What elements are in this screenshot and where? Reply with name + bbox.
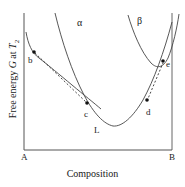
point-marker-c (85, 101, 89, 105)
x-axis-end-label: B (169, 153, 175, 162)
y-axis-title-temp-subscript: 2 (13, 40, 21, 44)
point-label-c: c (84, 110, 88, 119)
x-axis-title: Composition (0, 168, 185, 179)
y-axis-title-prefix: Free energy (7, 68, 18, 118)
liquid-curve (55, 13, 172, 126)
point-marker-d (145, 98, 149, 102)
x-axis-start-label: A (21, 153, 28, 162)
alpha-curve-label: α (77, 18, 82, 28)
point-marker-b (32, 50, 36, 54)
y-axis-title: Free energy G at T2 (7, 9, 21, 149)
free-energy-composition-diagram: α β L b c d e A B Composition Free energ… (0, 0, 185, 187)
point-label-e: e (166, 60, 170, 69)
tangent-d-e (147, 63, 163, 101)
point-label-d: d (146, 108, 151, 117)
liquid-curve-label: L (94, 126, 100, 135)
y-axis-title-temp: T (7, 43, 18, 49)
y-axis-title-symbol: G (7, 61, 18, 68)
beta-curve-label: β (137, 16, 142, 26)
point-label-b: b (28, 56, 33, 65)
point-marker-e (161, 59, 165, 63)
y-axis-title-mid: at (7, 49, 18, 61)
beta-curve (128, 14, 179, 67)
